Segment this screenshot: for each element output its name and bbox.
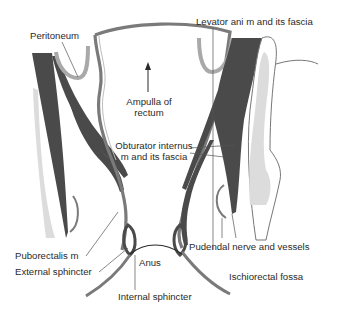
label-puborectalis: Puborectalis m [15,250,78,261]
leader-puborectalis [86,212,118,256]
right-vessel-loop [217,185,226,218]
right-outer-curve [276,60,318,64]
label-pudendal: Pudendal nerve and vessels [189,241,310,252]
arrow-up-icon [145,62,151,70]
label-anus: Anus [139,257,161,268]
label-obturator-line2: m and its fascia [104,151,204,162]
label-peritoneum: Peritoneum [30,30,79,41]
leader-pudendal-2 [232,214,236,238]
label-internal-sphincter: Internal sphincter [118,291,192,302]
label-ampulla-line2: rectum [120,107,178,118]
leader-external-sphincter [99,248,128,272]
label-obturator-line1: Obturator internus [104,140,204,151]
label-obturator: Obturator internus m and its fascia [104,140,204,162]
left-skin [86,255,130,296]
left-vessel-loop [70,196,78,232]
label-levator-ani: Levator ani m and its fascia [196,16,313,27]
right-skin [182,252,230,294]
label-external-sphincter: External sphincter [15,266,92,277]
label-ischiorectal: Ischiorectal fossa [229,271,303,282]
label-ampulla: Ampulla of rectum [120,96,178,118]
label-ampulla-line1: Ampulla of [120,96,178,107]
